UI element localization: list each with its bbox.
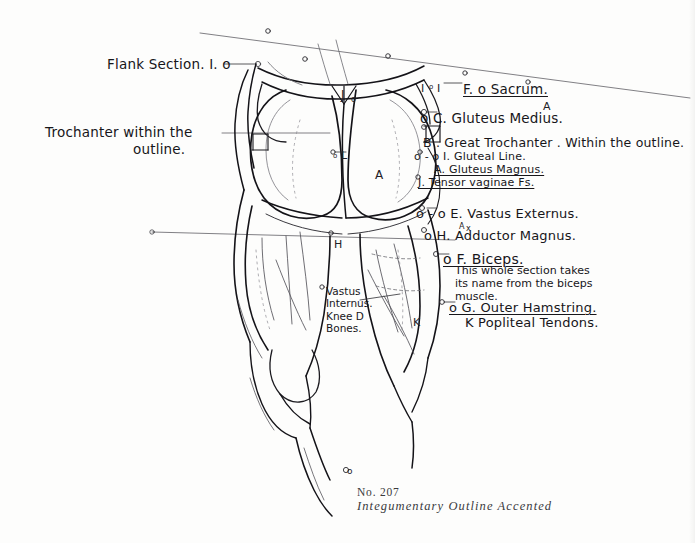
figure-letter-j: J <box>341 88 345 102</box>
figure-letter-o-bottom: o <box>347 466 353 476</box>
annotation-trochanter-within-line2: outline. <box>133 142 185 157</box>
vastus-internus-line-1: Vastus <box>326 285 373 297</box>
annotation-great-trochanter: B . Great Trochanter . Within the outlin… <box>423 136 684 150</box>
construction-line-nodes <box>266 29 531 85</box>
vastus-internus-line-2: Internus. <box>326 297 373 309</box>
annotation-tensor-vaginae: J. Tensor vaginae Fs. <box>418 177 534 189</box>
figure-letter-a-small: A <box>459 222 464 231</box>
figure-letter-j-dot: o <box>351 95 356 104</box>
construction-line-upper <box>200 33 690 98</box>
annotation-gluteus-medius: o C. Gluteus Medius. <box>420 111 563 126</box>
left-knee <box>250 342 311 438</box>
annotation-outer-hamstring: o G. Outer Hamstring. <box>449 301 597 316</box>
right-knee <box>394 358 428 422</box>
plate-number: No. 207 <box>357 486 552 498</box>
annotation-adductor-magnus: o H. Adductor Magnus. <box>424 229 576 244</box>
plate-title: Integumentary Outline Accented <box>357 499 552 514</box>
figure-letter-a-glute: A <box>375 168 383 182</box>
annotation-gluteal-line: o - o I. Gluteal Line. <box>414 151 526 163</box>
annotation-popliteal-tendons: K Popliteal Tendons. <box>465 316 599 331</box>
figure-letter-l-dot: o <box>333 152 337 160</box>
figure-letter-l: L <box>341 149 347 162</box>
great-trochanter-left <box>252 134 268 150</box>
figure-letter-i-dot: o <box>429 83 433 91</box>
gluteus-maximus-left <box>251 90 343 218</box>
gluteus-maximus-left-inner <box>266 100 290 200</box>
bones-label: Bones. <box>326 322 373 334</box>
plate-canvas: Flank Section. I. o Trochanter within th… <box>0 0 695 543</box>
left-thigh-muscle-detail <box>262 232 310 330</box>
annotation-sacrum: F. o Sacrum. <box>463 82 548 97</box>
biceps-note-line-2: its name from the biceps <box>455 278 593 291</box>
figure-letter-i-left: I <box>421 82 424 95</box>
annotation-vastus-internus-knee: Vastus Internus. Knee D Bones. <box>326 285 373 335</box>
annotation-gluteus-magnus: A. Gluteus Magnus. <box>434 164 544 176</box>
figure-letter-x-small: x <box>466 224 471 233</box>
annotation-trochanter-within-line1: Trochanter within the <box>45 125 193 140</box>
left-calf <box>296 428 332 516</box>
annotation-flank-section: Flank Section. I. o <box>107 57 231 72</box>
flank-crease <box>268 40 348 85</box>
vastus-internus-left <box>270 350 319 402</box>
annotation-biceps-note: This whole section takes its name from t… <box>455 265 593 304</box>
knee-d-label: Knee D <box>326 310 373 322</box>
figure-letter-a-sacrum: A <box>543 100 551 113</box>
figure-letter-h: H <box>334 238 342 251</box>
right-calf <box>412 422 414 468</box>
plate-caption: No. 207 Integumentary Outline Accented <box>357 486 552 514</box>
figure-letter-k: K <box>413 316 420 329</box>
figure-letter-i-right: I <box>437 82 440 95</box>
lower-leg-detail <box>238 300 324 500</box>
annotation-vastus-externus: o - o E. Vastus Externus. <box>416 207 579 222</box>
